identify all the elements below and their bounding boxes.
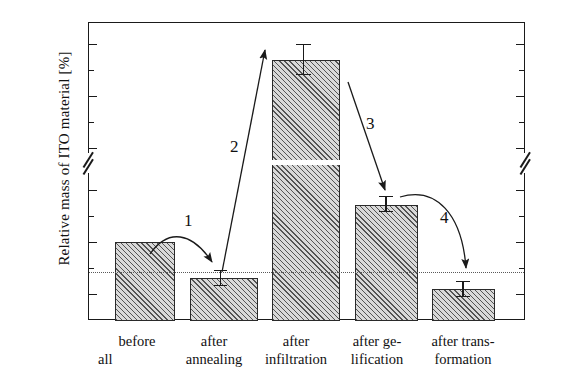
x-axis-labels: before all after annealing after infiltr… bbox=[88, 325, 525, 385]
reference-line bbox=[89, 272, 524, 273]
y-tick-right-123 bbox=[516, 44, 525, 45]
annotation-label-1: 1 bbox=[184, 211, 193, 231]
y-tick-minor-4 bbox=[88, 268, 94, 269]
x-label-after-transformation: after trans- formation bbox=[401, 333, 525, 368]
error-bar-after-annealing bbox=[214, 270, 227, 286]
y-tick-123 bbox=[88, 44, 97, 45]
y-tick-99 bbox=[88, 294, 97, 295]
y-tick-right-101 bbox=[516, 190, 525, 191]
y-tick-right-121 bbox=[516, 148, 525, 149]
y-tick-121 bbox=[88, 148, 97, 149]
y-tick-right-minor-4 bbox=[519, 268, 525, 269]
error-bar-after-infiltration bbox=[296, 44, 311, 75]
x-label-after-transformation-line1: after trans- bbox=[401, 333, 525, 351]
y-tick-minor-1 bbox=[88, 70, 94, 71]
annotation-label-3: 3 bbox=[366, 114, 375, 134]
y-tick-101 bbox=[88, 190, 97, 191]
y-tick-100 bbox=[88, 242, 97, 243]
axis-break-right bbox=[517, 155, 534, 170]
y-tick-right-minor-3 bbox=[519, 216, 525, 217]
y-tick-minor-3 bbox=[88, 216, 94, 217]
axis-break-left bbox=[80, 155, 97, 170]
y-tick-122 bbox=[88, 96, 97, 97]
chart-figure: Relative mass of ITO material [%] 123 12… bbox=[0, 0, 562, 389]
axis-break-band bbox=[90, 160, 524, 165]
y-tick-right-122 bbox=[516, 96, 525, 97]
error-bar-after-transformation bbox=[456, 281, 470, 297]
y-tick-minor-2 bbox=[88, 122, 94, 123]
y-axis-title: Relative mass of ITO material [%] bbox=[56, 9, 73, 309]
bar-after-infiltration bbox=[272, 60, 340, 321]
y-tick-right-99 bbox=[516, 294, 525, 295]
annotation-label-4: 4 bbox=[440, 208, 449, 228]
bar-before-all bbox=[115, 242, 175, 321]
annotation-label-2: 2 bbox=[230, 137, 239, 157]
error-bar-after-gelification bbox=[379, 196, 393, 212]
bar-after-gelification bbox=[355, 205, 418, 321]
x-label-after-transformation-line2: formation bbox=[401, 351, 525, 369]
y-tick-right-minor-2 bbox=[519, 122, 525, 123]
y-tick-right-minor-1 bbox=[519, 70, 525, 71]
y-tick-right-100 bbox=[516, 242, 525, 243]
